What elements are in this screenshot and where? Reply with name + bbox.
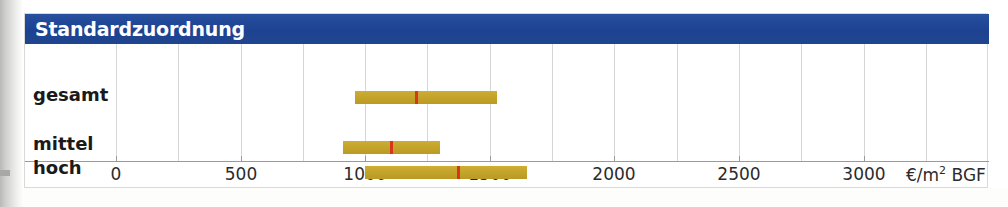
range-bar-gesamt xyxy=(355,91,497,104)
x-tick-mark xyxy=(864,156,865,162)
row-label-mittel: mittel xyxy=(33,133,94,154)
gridline xyxy=(677,44,678,161)
row-label-gesamt: gesamt xyxy=(33,84,108,105)
x-tick-mark xyxy=(614,156,615,162)
gridline xyxy=(864,44,865,161)
gridline xyxy=(178,44,179,161)
x-tick-mark xyxy=(116,156,117,162)
x-axis-line xyxy=(25,161,989,162)
x-tick-mark xyxy=(241,156,242,162)
x-tick-label: 2000 xyxy=(592,164,635,184)
gridline xyxy=(241,44,242,161)
chart-title: Standardzuordnung xyxy=(35,18,245,40)
chart-gridlines xyxy=(25,44,989,161)
page-edge-mark xyxy=(0,170,10,176)
chart-figure: Standardzuordnung 0500100015002000250030… xyxy=(24,13,988,188)
x-tick-label: 0 xyxy=(111,164,122,184)
gridline xyxy=(303,44,304,161)
gridline xyxy=(926,44,927,161)
chart-plot-area: 050010001500200025003000 gesamtmittelhoc… xyxy=(25,44,989,187)
range-bar-hoch xyxy=(365,166,527,179)
chart-title-bar: Standardzuordnung xyxy=(25,14,989,44)
x-tick-label: 500 xyxy=(225,164,257,184)
x-tick-label: 2500 xyxy=(717,164,760,184)
gridline xyxy=(739,44,740,161)
page-bottom-margin xyxy=(22,188,1008,207)
median-marker-gesamt xyxy=(415,91,418,104)
x-tick-mark xyxy=(365,156,366,162)
gridline xyxy=(614,44,615,161)
unit-exponent: 2 xyxy=(939,164,946,177)
median-marker-mittel xyxy=(390,141,393,154)
median-marker-hoch xyxy=(457,166,460,179)
x-tick-mark xyxy=(739,156,740,162)
x-tick-label: 3000 xyxy=(842,164,885,184)
gridline xyxy=(552,44,553,161)
row-label-hoch: hoch xyxy=(33,157,82,178)
gridline xyxy=(801,44,802,161)
x-axis-unit-label: €/m2 BGF xyxy=(906,164,986,185)
x-tick-mark xyxy=(490,156,491,162)
gridline xyxy=(116,44,117,161)
